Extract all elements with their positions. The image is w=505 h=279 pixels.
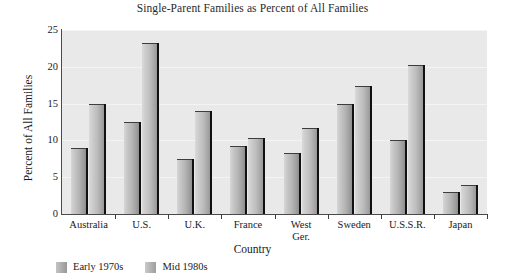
bar	[408, 65, 423, 214]
chart-container: Single-Parent Families as Percent of All…	[0, 0, 505, 279]
bar	[142, 43, 157, 214]
x-axis-label: Country	[0, 243, 505, 255]
bar	[195, 111, 210, 214]
bar	[124, 122, 139, 214]
y-tick-label: 5	[6, 172, 58, 183]
y-tick-label: 15	[6, 98, 58, 109]
plot-area	[62, 30, 487, 214]
y-tick-label: 10	[6, 135, 58, 146]
bar	[461, 185, 476, 214]
bar	[390, 140, 405, 214]
gridline	[62, 67, 487, 68]
bar	[443, 192, 458, 214]
chart-title: Single-Parent Families as Percent of All…	[0, 2, 505, 14]
y-tick-label: 20	[6, 62, 58, 73]
bar	[71, 148, 86, 214]
legend-item: Early 1970s	[56, 262, 123, 273]
bar	[302, 128, 317, 214]
legend-label: Early 1970s	[73, 262, 123, 273]
legend: Early 1970s Mid 1980s	[56, 262, 208, 273]
legend-item: Mid 1980s	[145, 262, 207, 273]
y-tick-label: 25	[6, 25, 58, 36]
x-tick-label: Japan	[424, 219, 497, 231]
legend-label: Mid 1980s	[162, 262, 207, 273]
legend-swatch-icon	[56, 262, 67, 273]
bar	[355, 86, 370, 214]
bar	[284, 153, 299, 214]
gridline	[62, 30, 487, 31]
bar	[177, 159, 192, 214]
gridline	[62, 104, 487, 105]
y-axis: Percent of All Families 0510152025	[0, 0, 58, 279]
bar	[89, 104, 104, 214]
y-tick-label: 0	[6, 209, 58, 220]
bar	[230, 146, 245, 214]
bar	[248, 138, 263, 214]
legend-swatch-icon	[145, 262, 156, 273]
bar	[337, 104, 352, 214]
